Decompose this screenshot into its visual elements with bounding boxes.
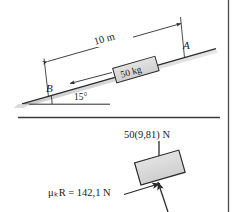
dimension-label-group: 10 m <box>93 30 133 47</box>
incline-scenario-panel: 15° 10 m A B 50 kg <box>14 17 218 108</box>
weight-force-label: 50(9,81) N <box>124 129 170 141</box>
free-body-block <box>135 150 186 185</box>
physics-figure: 15° 10 m A B 50 kg 50(9,81) N <box>0 0 246 212</box>
friction-force-label: μₖR = 142,1 N <box>48 187 111 198</box>
free-body-diagram-panel: 50(9,81) N μₖR = 142,1 N <box>48 129 185 212</box>
point-B-label: B <box>46 82 53 94</box>
dimension-tick-A <box>181 17 185 58</box>
normal-force-arrow <box>158 182 168 212</box>
angle-arc <box>51 96 52 104</box>
angle-label: 15° <box>74 92 88 102</box>
incline-block: 50 kg <box>113 56 159 83</box>
point-A-label: A <box>182 39 190 51</box>
incline-ground-shading <box>14 104 30 108</box>
